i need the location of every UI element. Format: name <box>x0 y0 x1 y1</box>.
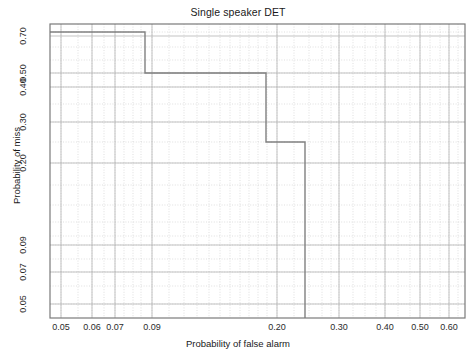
x-axis-label: Probability of false alarm <box>0 338 476 349</box>
xtick-label: 0.30 <box>330 322 348 332</box>
ytick-label: 0.09 <box>18 236 28 254</box>
plot-area <box>0 0 476 357</box>
xtick-label: 0.07 <box>106 322 124 332</box>
xtick-label: 0.05 <box>52 322 70 332</box>
xtick-label: 0.40 <box>376 322 394 332</box>
plot-background <box>50 24 465 318</box>
xtick-label: 0.50 <box>411 322 429 332</box>
y-axis-label: Probability of miss <box>11 106 22 226</box>
xtick-label: 0.06 <box>83 322 101 332</box>
xtick-label: 0.20 <box>268 322 286 332</box>
xtick-label: 0.60 <box>440 322 458 332</box>
ytick-label: 0.50 <box>18 64 28 82</box>
ytick-label: 0.70 <box>18 27 28 45</box>
det-chart-figure: Single speaker DET <box>0 0 476 357</box>
ytick-label: 0.05 <box>18 295 28 313</box>
xtick-label: 0.09 <box>143 322 161 332</box>
ytick-label: 0.07 <box>18 263 28 281</box>
